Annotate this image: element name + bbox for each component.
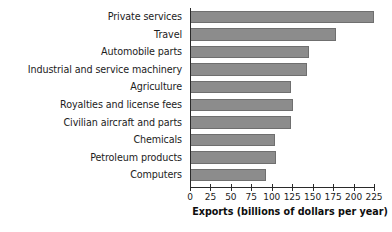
category-label: Chemicals (133, 131, 182, 149)
bar (190, 116, 291, 128)
bar (190, 46, 309, 58)
plot-area (190, 8, 390, 186)
bar (190, 134, 275, 146)
category-label: Automobile parts (101, 43, 182, 61)
x-axis-tick-label: 150 (304, 192, 321, 202)
bar-chart: Private servicesTravelAutomobile partsIn… (0, 0, 392, 232)
bar (190, 151, 276, 163)
x-axis-tick-mark (374, 184, 375, 191)
bar (190, 11, 374, 23)
x-axis-tick-label: 75 (246, 192, 257, 202)
x-axis-tick-mark (231, 184, 232, 191)
category-label: Royalties and license fees (60, 96, 182, 114)
bar (190, 63, 307, 75)
x-axis-tick-label: 0 (187, 192, 193, 202)
x-axis-tick-mark (313, 184, 314, 191)
bar (190, 169, 266, 181)
bar (190, 81, 291, 93)
bar (190, 28, 336, 40)
x-axis-tick-label: 50 (225, 192, 236, 202)
x-axis-tick-mark (251, 184, 252, 191)
x-axis-tick-mark (354, 184, 355, 191)
x-axis-title: Exports (billions of dollars per year) (190, 206, 390, 217)
x-axis-tick-label: 175 (325, 192, 342, 202)
x-axis-tick-label: 125 (284, 192, 301, 202)
category-label: Civilian aircraft and parts (63, 114, 182, 132)
x-axis-tick-label: 200 (345, 192, 362, 202)
x-axis-tick-mark (292, 184, 293, 191)
x-axis-tick-label: 225 (365, 192, 382, 202)
category-label: Petroleum products (90, 149, 182, 167)
x-axis-tick-mark (210, 184, 211, 191)
x-axis-tick-label: 100 (263, 192, 280, 202)
category-label: Industrial and service machinery (28, 61, 182, 79)
category-label: Computers (130, 166, 182, 184)
x-axis-tick-mark (333, 184, 334, 191)
category-axis-labels: Private servicesTravelAutomobile partsIn… (0, 8, 186, 186)
x-axis-tick-label: 25 (205, 192, 216, 202)
x-axis-line (190, 187, 374, 188)
bar (190, 99, 293, 111)
category-label: Agriculture (130, 78, 182, 96)
x-axis-tick-mark (272, 184, 273, 191)
y-axis-line (190, 8, 191, 187)
category-label: Private services (108, 8, 182, 26)
category-label: Travel (154, 26, 182, 44)
x-axis-tick-mark (190, 184, 191, 191)
